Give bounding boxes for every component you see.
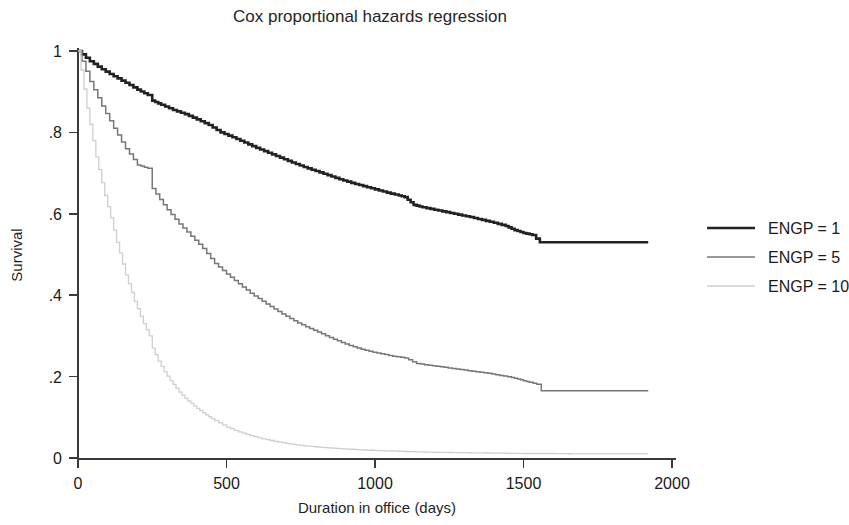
y-tick-label: .8 bbox=[49, 124, 62, 141]
x-axis-label: Duration in office (days) bbox=[298, 499, 456, 516]
x-tick-label: 2000 bbox=[654, 475, 690, 492]
survival-plot-figure: Cox proportional hazards regression 0.2.… bbox=[0, 0, 849, 525]
legend-label-1: ENGP = 1 bbox=[768, 220, 840, 237]
y-tick-label: .2 bbox=[49, 369, 62, 386]
y-tick-label: .4 bbox=[49, 287, 62, 304]
y-tick-label: 1 bbox=[53, 43, 62, 60]
x-tick-label: 1000 bbox=[357, 475, 393, 492]
legend-label-3: ENGP = 10 bbox=[768, 278, 849, 295]
chart-title: Cox proportional hazards regression bbox=[233, 7, 507, 26]
legend-label-2: ENGP = 5 bbox=[768, 249, 840, 266]
y-axis-label: Survival bbox=[8, 228, 25, 281]
figure-background bbox=[0, 0, 849, 525]
y-tick-label: 0 bbox=[53, 450, 62, 467]
x-tick-label: 0 bbox=[74, 475, 83, 492]
y-tick-label: .6 bbox=[49, 206, 62, 223]
x-tick-label: 500 bbox=[213, 475, 240, 492]
x-tick-label: 1500 bbox=[506, 475, 542, 492]
